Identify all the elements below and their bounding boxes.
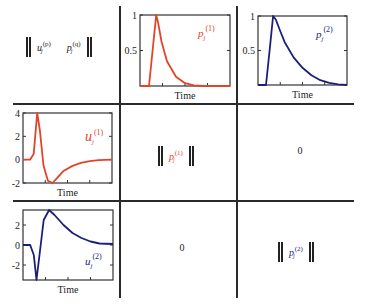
x-axis-label: Time bbox=[57, 187, 78, 198]
y-tick-label: -2 bbox=[12, 260, 20, 271]
header-p-symbol: pj(q) bbox=[67, 40, 81, 54]
chart-u1: 420-2Timeuj(1) bbox=[23, 113, 112, 203]
grid-divider-vertical-1 bbox=[119, 6, 121, 298]
y-tick-label: 1 bbox=[250, 11, 255, 22]
series-line-p1 bbox=[140, 15, 230, 86]
x-axis-label: Time bbox=[292, 89, 313, 100]
y-tick-label: -2 bbox=[12, 178, 20, 189]
plot-p2: 10.5Timepj(2) bbox=[258, 16, 347, 109]
cell-norm-p1: pj(1) bbox=[158, 146, 194, 166]
y-tick-label: 0 bbox=[15, 154, 20, 165]
series-label-p2: pj(2) bbox=[315, 25, 333, 43]
series-line-p2 bbox=[258, 16, 347, 85]
series-label-p1: pj(1) bbox=[197, 24, 215, 42]
chart-p1: 10.5Timepj(1) bbox=[140, 15, 230, 106]
x-axis-label: Time bbox=[175, 90, 196, 101]
norm-bar-right bbox=[87, 37, 92, 57]
chart-p2: 10.5Timepj(2) bbox=[258, 16, 347, 105]
norm-bar-right bbox=[309, 242, 314, 262]
y-tick-label: 0 bbox=[15, 240, 20, 251]
cell-p1-symbol: pj(1) bbox=[169, 149, 183, 163]
x-axis-label: Time bbox=[58, 284, 79, 295]
cell-zero-r1c2: 0 bbox=[290, 145, 310, 156]
series-label-u2: uj(2) bbox=[85, 252, 102, 270]
y-tick-label: 0.5 bbox=[243, 45, 256, 56]
y-tick-label: 2 bbox=[15, 220, 20, 231]
y-tick-label: 1 bbox=[132, 10, 137, 21]
series-line-u1 bbox=[23, 113, 112, 183]
plot-frame bbox=[23, 210, 113, 280]
header-norm-expression: uj(p) pj(q) bbox=[26, 37, 92, 57]
series-line-u2 bbox=[23, 210, 113, 280]
norm-bar-left bbox=[278, 242, 283, 262]
cell-norm-p2: pj(2) bbox=[278, 242, 314, 262]
y-tick-label: 0.5 bbox=[125, 45, 138, 56]
norm-bar-left bbox=[26, 37, 31, 57]
chart-u2: 20-2Timeuj(2) bbox=[23, 210, 113, 300]
y-tick-label: 4 bbox=[15, 108, 20, 119]
plot-p1: 10.5Timepj(1) bbox=[140, 15, 230, 110]
plot-u2: 20-2Timeuj(2) bbox=[23, 210, 113, 304]
cell-zero-r2c1: 0 bbox=[172, 242, 192, 253]
header-u-symbol: uj(p) bbox=[37, 40, 51, 54]
cell-p2-symbol: pj(2) bbox=[289, 245, 303, 259]
series-label-u1: uj(1) bbox=[85, 128, 104, 146]
plot-u1: 420-2Timeuj(1) bbox=[23, 113, 112, 207]
y-tick-label: 2 bbox=[15, 131, 20, 142]
norm-bar-left bbox=[158, 146, 163, 166]
norm-bar-right bbox=[189, 146, 194, 166]
grid-divider-vertical-2 bbox=[236, 6, 238, 298]
